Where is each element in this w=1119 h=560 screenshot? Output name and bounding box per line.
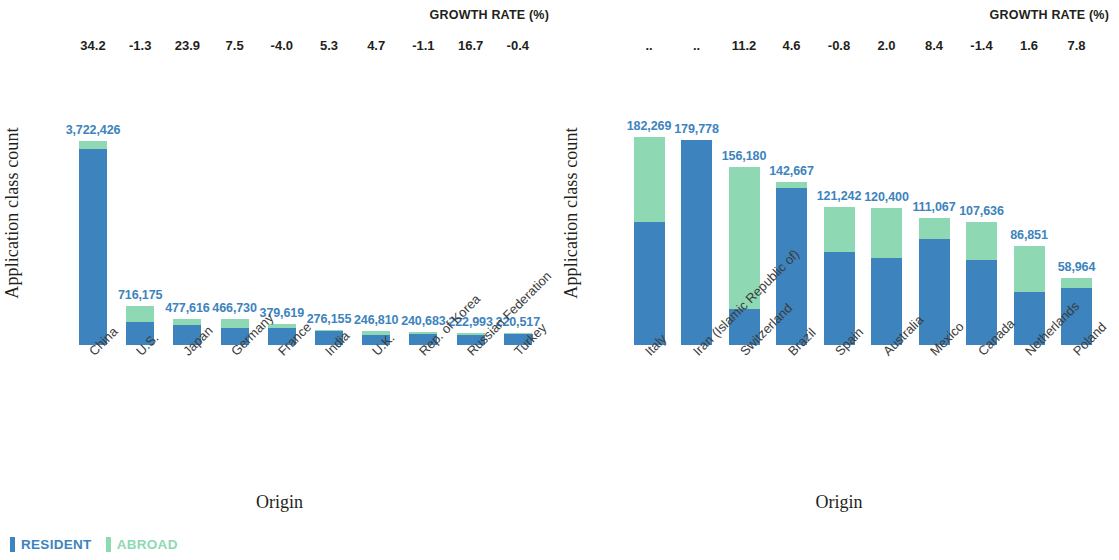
plot-area-right: 182,269179,778156,180142,667121,242120,4…: [559, 95, 1118, 345]
bar-segment-resident[interactable]: [681, 140, 712, 345]
bar-segment-abroad[interactable]: [1014, 246, 1045, 292]
bar-value-label: 107,636: [959, 204, 1004, 218]
bar-value-label: 58,964: [1058, 260, 1096, 274]
growth-rate-value: -1.1: [399, 38, 447, 53]
bar-value-label: 120,400: [864, 190, 909, 204]
growth-rate-value: -4.0: [258, 38, 306, 53]
bar-value-label: 466,730: [212, 301, 257, 315]
bar-segment-abroad[interactable]: [126, 306, 154, 322]
growth-rate-value: 4.6: [768, 38, 816, 53]
bar-segment-resident[interactable]: [634, 222, 665, 345]
stacked-bar[interactable]: [681, 140, 712, 345]
bar-group[interactable]: 477,616: [173, 95, 201, 345]
bar-segment-abroad[interactable]: [824, 207, 855, 253]
legend-swatch-resident-icon: [10, 537, 15, 552]
bar-group[interactable]: 276,155: [315, 95, 343, 345]
growth-rate-value: 5.3: [305, 38, 353, 53]
bar-value-label: 716,175: [118, 288, 163, 302]
bar-segment-abroad[interactable]: [1061, 278, 1092, 288]
bar-value-label: 156,180: [722, 149, 767, 163]
growth-rate-value: 23.9: [163, 38, 211, 53]
x-axis-categories-left: ChinaU.S.JapanGermanyFranceIndiaU.K.Rep.…: [0, 348, 559, 488]
bar-group[interactable]: 182,269: [634, 95, 665, 345]
stacked-bar[interactable]: [634, 137, 665, 345]
growth-rate-value: -1.3: [116, 38, 164, 53]
stacked-bar[interactable]: [966, 222, 997, 345]
legend-label-resident: RESIDENT: [21, 537, 92, 552]
growth-rate-value: 8.4: [910, 38, 958, 53]
bar-group[interactable]: 86,851: [1014, 95, 1045, 345]
bar-value-label: 246,810: [354, 313, 399, 327]
x-axis-title-left: Origin: [0, 492, 559, 513]
legend-swatch-abroad-icon: [106, 537, 111, 552]
bar-value-label: 179,778: [674, 122, 719, 136]
growth-rate-value: 4.7: [352, 38, 400, 53]
bar-value-label: 142,667: [769, 164, 814, 178]
growth-rate-value: 7.5: [211, 38, 259, 53]
x-axis-categories-right: ItalyIran (Islamic Republic of)Switzerla…: [559, 348, 1118, 488]
growth-rate-value: -0.8: [815, 38, 863, 53]
stacked-bar[interactable]: [79, 141, 107, 345]
bar-group[interactable]: 466,730: [221, 95, 249, 345]
growth-rate-value: 1.6: [1005, 38, 1053, 53]
bar-value-label: 182,269: [627, 119, 672, 133]
bar-group[interactable]: 3,722,426: [79, 95, 107, 345]
bar-segment-abroad[interactable]: [221, 319, 249, 328]
bar-group[interactable]: 121,242: [824, 95, 855, 345]
bar-group[interactable]: 379,619: [268, 95, 296, 345]
x-axis-title-right: Origin: [559, 492, 1119, 513]
stacked-bar[interactable]: [824, 207, 855, 345]
chart-panel-left: GROWTH RATE (%) 34.2-1.323.97.5-4.05.34.…: [0, 0, 559, 560]
growth-rate-value: 34.2: [69, 38, 117, 53]
legend-item-resident: RESIDENT: [10, 537, 92, 552]
bar-value-label: 276,155: [307, 312, 352, 326]
growth-rate-value: -1.4: [958, 38, 1006, 53]
bar-segment-abroad[interactable]: [79, 141, 107, 149]
bar-group[interactable]: 120,400: [871, 95, 902, 345]
chart-panel-right: GROWTH RATE (%) ....11.24.6-0.82.08.4-1.…: [559, 0, 1119, 560]
bar-segment-abroad[interactable]: [871, 208, 902, 258]
bar-group[interactable]: 716,175: [126, 95, 154, 345]
bar-group[interactable]: 179,778: [681, 95, 712, 345]
bar-value-label: 3,722,426: [66, 123, 121, 137]
bar-value-label: 477,616: [165, 301, 210, 315]
bar-group[interactable]: 246,810: [362, 95, 390, 345]
growth-rate-value: 7.8: [1053, 38, 1101, 53]
growth-rate-value: -0.4: [494, 38, 542, 53]
dual-chart-container: GROWTH RATE (%) 34.2-1.323.97.5-4.05.34.…: [0, 0, 1119, 560]
legend-item-abroad: ABROAD: [106, 537, 178, 552]
growth-rate-value: 2.0: [863, 38, 911, 53]
bar-group[interactable]: 240,683: [409, 95, 437, 345]
bar-segment-abroad[interactable]: [966, 222, 997, 260]
bar-group[interactable]: 107,636: [966, 95, 997, 345]
bar-value-label: 121,242: [817, 189, 862, 203]
bar-segment-abroad[interactable]: [634, 137, 665, 222]
bar-segment-abroad[interactable]: [919, 218, 950, 238]
growth-rate-value: ..: [673, 38, 721, 53]
growth-rate-header-right: GROWTH RATE (%): [990, 8, 1109, 22]
legend-label-abroad: ABROAD: [117, 537, 178, 552]
legend-left: RESIDENT ABROAD: [10, 537, 178, 552]
bar-value-label: 111,067: [912, 200, 955, 214]
growth-rate-value: 11.2: [720, 38, 768, 53]
bar-group[interactable]: 111,067: [919, 95, 950, 345]
bar-value-label: 86,851: [1010, 228, 1048, 242]
stacked-bar[interactable]: [871, 208, 902, 345]
growth-rate-header-left: GROWTH RATE (%): [430, 8, 549, 22]
growth-rate-value: ..: [625, 38, 673, 53]
growth-rate-value: 16.7: [447, 38, 495, 53]
bar-segment-resident[interactable]: [79, 149, 107, 345]
